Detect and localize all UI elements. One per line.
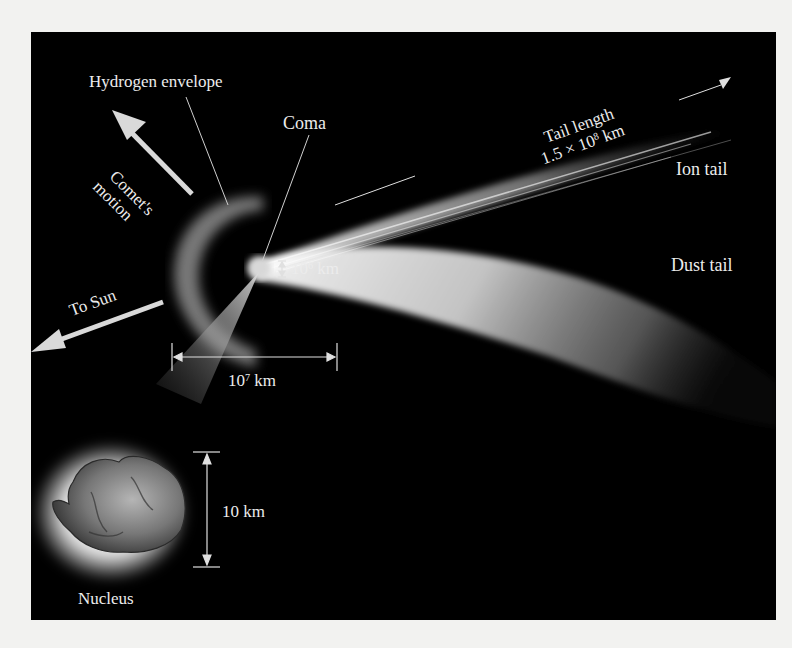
- hydrogen-envelope-label: Hydrogen envelope: [89, 73, 223, 90]
- nucleus-size-bracket: [193, 452, 220, 567]
- coma-size-label: 106 km: [291, 260, 339, 277]
- coma-leader: [262, 135, 309, 262]
- coma-label: Coma: [283, 114, 326, 132]
- envelope-size-label: 107 km: [228, 372, 276, 389]
- comet-illustration: [31, 32, 776, 620]
- coma-shape: [247, 256, 271, 280]
- comet-diagram: Hydrogen envelope Coma Comet's motion To…: [31, 32, 776, 620]
- ion-tail-label: Ion tail: [676, 160, 728, 178]
- ion-tail-shape: [261, 127, 731, 272]
- dust-tail-label: Dust tail: [671, 256, 733, 274]
- hydrogen-envelope-leader: [186, 97, 228, 205]
- nucleus-size-label: 10 km: [222, 503, 265, 520]
- nucleus-label: Nucleus: [78, 590, 134, 607]
- nucleus-image: [33, 442, 189, 582]
